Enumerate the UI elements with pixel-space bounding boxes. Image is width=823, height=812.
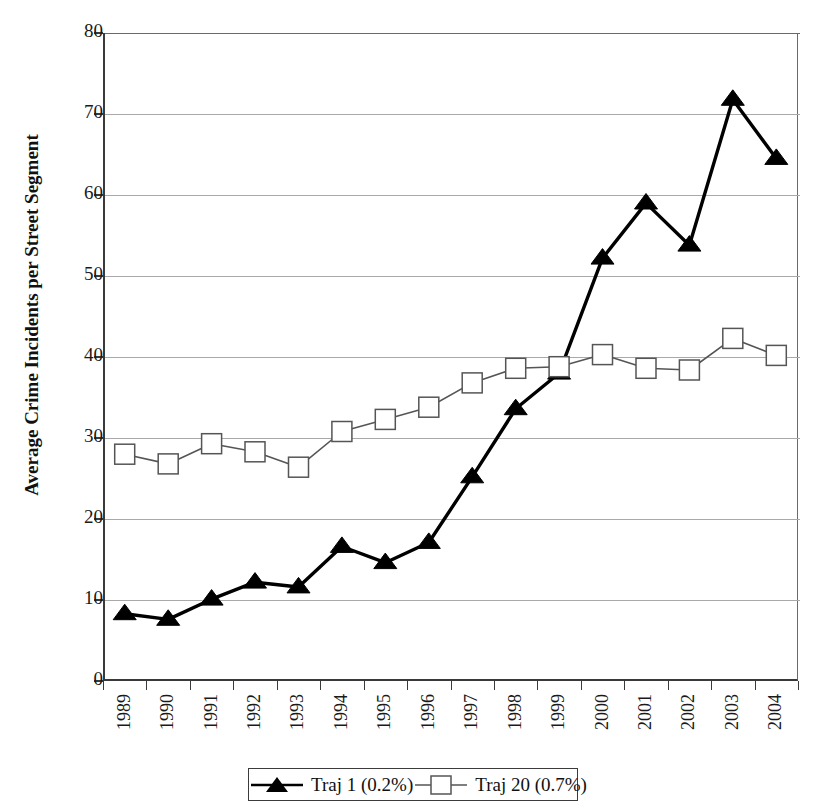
x-tick-mark <box>581 681 582 690</box>
gridline <box>105 519 800 520</box>
x-tick-mark <box>407 681 408 690</box>
x-tick-mark <box>364 681 365 690</box>
x-tick-mark <box>755 681 756 690</box>
y-tick-label: 70 <box>43 101 103 123</box>
plot-area <box>103 33 798 681</box>
x-tick-mark <box>233 681 234 690</box>
x-tick-mark <box>537 681 538 690</box>
y-tick-label: 60 <box>43 182 103 204</box>
x-tick-mark <box>668 681 669 690</box>
y-tick-label: 50 <box>43 263 103 285</box>
x-tick-label: 2001 <box>635 694 657 754</box>
gridline <box>105 600 800 601</box>
legend-item-traj1[interactable]: Traj 1 (0.2%) <box>249 774 413 796</box>
x-tick-mark <box>494 681 495 690</box>
x-tick-label: 1991 <box>201 694 223 754</box>
y-tick-label: 80 <box>43 20 103 42</box>
x-tick-label: 2002 <box>678 694 700 754</box>
x-tick-label: 1993 <box>287 694 309 754</box>
y-tick-label: 0 <box>43 668 103 690</box>
x-tick-mark <box>146 681 147 690</box>
x-tick-mark <box>711 681 712 690</box>
x-tick-mark <box>190 681 191 690</box>
x-tick-label: 1992 <box>244 694 266 754</box>
gridline <box>105 276 800 277</box>
cropped-caption-sliver <box>0 805 823 812</box>
x-tick-label: 1998 <box>505 694 527 754</box>
gridline <box>105 438 800 439</box>
x-tick-label: 1989 <box>114 694 136 754</box>
x-tick-label: 1990 <box>157 694 179 754</box>
x-tick-mark <box>624 681 625 690</box>
y-tick-label: 40 <box>43 344 103 366</box>
x-tick-label: 1995 <box>374 694 396 754</box>
x-tick-label: 1999 <box>548 694 570 754</box>
gridline <box>105 114 800 115</box>
filled-triangle-icon <box>249 775 305 795</box>
x-tick-mark <box>451 681 452 690</box>
x-tick-label: 1996 <box>418 694 440 754</box>
x-tick-mark <box>103 681 104 690</box>
x-tick-label: 2000 <box>592 694 614 754</box>
x-tick-mark <box>798 681 799 690</box>
y-axis-tick-group: 01020304050607080 <box>33 0 103 812</box>
chart-figure: Average Crime Incidents per Street Segme… <box>0 0 823 812</box>
legend-label-traj1: Traj 1 (0.2%) <box>311 774 413 796</box>
x-tick-label: 1997 <box>461 694 483 754</box>
x-tick-mark <box>320 681 321 690</box>
x-tick-label: 1994 <box>331 694 353 754</box>
legend-label-traj20: Traj 20 (0.7%) <box>475 774 587 796</box>
gridline <box>105 195 800 196</box>
gridline <box>105 357 800 358</box>
y-tick-label: 30 <box>43 425 103 447</box>
y-tick-label: 20 <box>43 506 103 528</box>
legend-item-traj20[interactable]: Traj 20 (0.7%) <box>413 774 587 796</box>
gridline <box>105 33 800 34</box>
chart-legend: Traj 1 (0.2%) Traj 20 (0.7%) <box>248 768 578 801</box>
x-tick-label: 2003 <box>722 694 744 754</box>
x-tick-label: 2004 <box>765 694 787 754</box>
y-tick-label: 10 <box>43 587 103 609</box>
x-tick-mark <box>277 681 278 690</box>
open-square-icon <box>413 775 469 795</box>
